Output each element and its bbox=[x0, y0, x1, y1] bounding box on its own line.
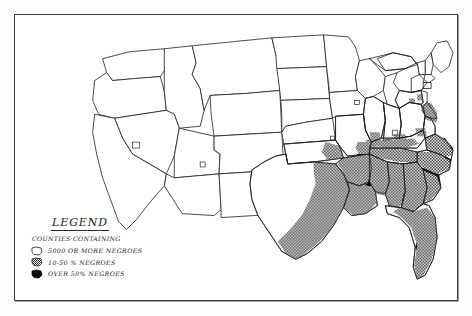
legend-label-over-50: OVER 50% NEGROES bbox=[48, 270, 125, 277]
solid-black-county-swatch bbox=[31, 269, 44, 279]
legend-label-5000-or-more: 5000 OR MORE NEGROES bbox=[48, 247, 142, 254]
legend-entry-10-to-50: 10-50 % NEGROES bbox=[31, 257, 163, 268]
legend-entry-5000-or-more: 5000 OR MORE NEGROES bbox=[31, 245, 163, 256]
legend-subtitle: COUNTIES CONTAINING bbox=[32, 235, 163, 242]
map-legend: LEGEND COUNTIES CONTAINING 5000 OR MORE … bbox=[31, 217, 163, 297]
outline-county-swatch bbox=[31, 246, 44, 256]
legend-title-underline bbox=[51, 230, 109, 231]
page-root: LEGEND COUNTIES CONTAINING 5000 OR MORE … bbox=[0, 0, 472, 316]
stippled-county-swatch bbox=[31, 257, 44, 267]
map-frame: LEGEND COUNTIES CONTAINING 5000 OR MORE … bbox=[14, 14, 458, 301]
legend-entry-over-50: OVER 50% NEGROES bbox=[31, 268, 163, 279]
legend-label-10-to-50: 10-50 % NEGROES bbox=[48, 259, 116, 266]
legend-title: LEGEND bbox=[43, 217, 117, 229]
